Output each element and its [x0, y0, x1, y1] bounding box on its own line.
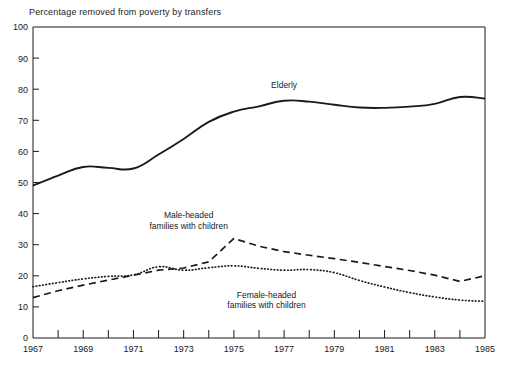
y-tick-label: 40 — [18, 209, 28, 219]
y-tick-label: 50 — [18, 178, 28, 188]
series-label-female-headed: Female-headed — [237, 290, 297, 300]
series-label-elderly: Elderly — [271, 80, 298, 90]
x-tick-label: 1979 — [324, 344, 344, 354]
x-tick-label: 1969 — [73, 344, 93, 354]
y-tick-label: 70 — [18, 116, 28, 126]
line-chart-plot: 0102030405060708090100 19671969197119731… — [0, 0, 506, 366]
x-tick-label: 1985 — [475, 344, 495, 354]
series-label-male-headed: Male-headed — [164, 210, 214, 220]
x-tick-label: 1981 — [375, 344, 395, 354]
x-tick-label: 1973 — [174, 344, 194, 354]
x-tick-label: 1975 — [224, 344, 244, 354]
x-tick-label: 1967 — [23, 344, 43, 354]
series-line-elderly — [33, 97, 485, 186]
x-tick-label: 1983 — [425, 344, 445, 354]
y-tick-label: 60 — [18, 147, 28, 157]
y-tick-label: 0 — [23, 333, 28, 343]
y-tick-label: 30 — [18, 240, 28, 250]
series-label-male-headed: families with children — [149, 221, 228, 231]
y-axis-ticks: 0102030405060708090100 — [13, 22, 39, 343]
y-tick-label: 10 — [18, 302, 28, 312]
y-tick-label: 100 — [13, 22, 28, 32]
x-tick-label: 1971 — [123, 344, 143, 354]
data-series — [33, 97, 485, 302]
x-axis-ticks: 1967196919711973197519771979198119831985 — [23, 330, 495, 354]
chart-container: Percentage removed from poverty by trans… — [0, 0, 506, 366]
x-tick-label: 1977 — [274, 344, 294, 354]
series-label-female-headed: families with children — [227, 300, 306, 310]
y-tick-label: 90 — [18, 54, 28, 64]
y-tick-label: 80 — [18, 85, 28, 95]
y-tick-label: 20 — [18, 271, 28, 281]
